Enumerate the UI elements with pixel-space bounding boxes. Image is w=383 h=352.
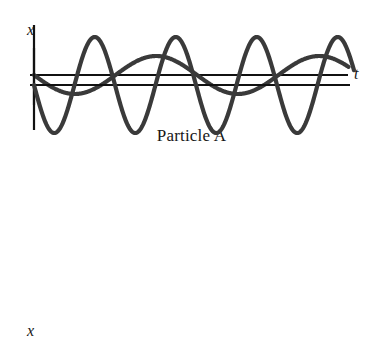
particle-b-panel: x t Particle B: [0, 160, 383, 352]
particle-b-plot: [0, 0, 383, 192]
y-axis-label-b: x: [27, 323, 34, 339]
figure-root: x t Particle A x t Particle B: [0, 0, 383, 352]
